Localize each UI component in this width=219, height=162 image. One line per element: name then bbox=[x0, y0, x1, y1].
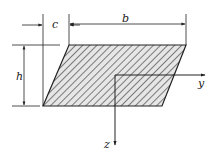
parallelogram-section-diagram: c b h y z bbox=[0, 0, 219, 162]
label-b: b bbox=[122, 12, 129, 25]
label-z: z bbox=[103, 138, 110, 151]
label-c: c bbox=[52, 18, 58, 31]
label-y: y bbox=[197, 77, 205, 90]
label-h: h bbox=[16, 70, 23, 83]
